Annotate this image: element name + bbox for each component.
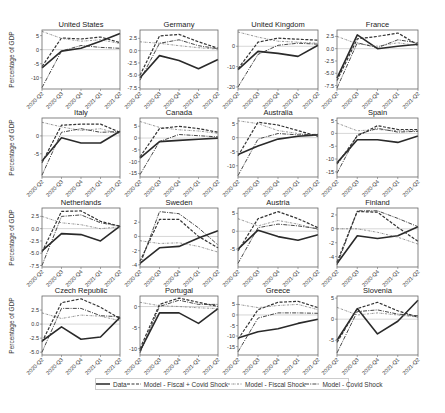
panel-frame	[140, 208, 218, 267]
y-tick-label: -5	[132, 325, 137, 331]
x-tick-label: 2020-Q4	[162, 356, 181, 375]
x-tick-label: 2020-Q2	[25, 90, 44, 109]
y-tick-label: -5.0	[30, 349, 39, 355]
x-tick-label: 2020-Q2	[320, 178, 339, 197]
y-tick-label: -5	[329, 143, 334, 149]
legend-item-covid: Model - Covid Shock	[305, 381, 382, 388]
y-tick-label: -4	[329, 254, 334, 260]
panel-united-states: United States50-5-102020-Q22020-Q32020-Q…	[8, 20, 123, 110]
dashed-line-swatch-icon	[127, 382, 141, 386]
dashdot-line-swatch-icon	[305, 382, 319, 386]
x-tick-label: 2020-Q4	[261, 178, 280, 197]
y-tick-label: 0	[232, 135, 235, 141]
x-tick-label: 2021-Q2	[401, 90, 420, 109]
x-tick-label: 2020-Q2	[320, 268, 339, 287]
x-tick-label: 2020-Q3	[241, 178, 260, 197]
panel-canada: Canada50-5-10-152020-Q22020-Q32020-Q4202…	[123, 108, 220, 198]
y-tick-label: -10	[326, 156, 334, 162]
x-tick-label: 2020-Q3	[143, 268, 162, 287]
x-tick-label: 2020-Q3	[45, 178, 64, 197]
series-line-model-fiscal-covid-shock	[42, 211, 120, 252]
y-axis-label: Percentage of GDP	[8, 297, 16, 353]
series-line-model-fiscal-shock	[238, 304, 318, 309]
panel-title: Portugal	[165, 286, 193, 295]
x-tick-label: 2021-Q2	[201, 90, 220, 109]
series-line-data	[337, 35, 418, 78]
panel-title: Slovenia	[363, 286, 393, 295]
y-tick-label: -5	[34, 151, 39, 157]
x-tick-label: 2021-Q1	[381, 356, 400, 375]
y-tick-label: -5.0	[30, 250, 39, 256]
series-line-model-fiscal-covid-shock	[337, 302, 418, 342]
x-tick-label: 2020-Q2	[25, 178, 44, 197]
panel-frame	[337, 296, 418, 355]
panel-title: United Kingdom	[251, 20, 304, 29]
y-tick-label: 0	[232, 43, 235, 49]
panel-frame	[238, 118, 318, 177]
legend-label: Model - Fiscal Shock	[245, 381, 305, 388]
panel-spain: Spain50-5-10-152020-Q22020-Q32020-Q42021…	[320, 108, 420, 198]
x-tick-label: 2021-Q1	[182, 268, 201, 287]
panel-united-kingdom: United Kingdom0-10-202020-Q22020-Q32020-…	[221, 20, 320, 110]
series-line-model-covid-shock	[337, 40, 418, 88]
series-line-data	[42, 226, 120, 251]
y-tick-label: -10	[31, 75, 39, 81]
y-tick-label: 0	[36, 133, 39, 139]
series-line-model-covid-shock	[337, 310, 418, 353]
x-tick-label: 2020-Q4	[261, 356, 280, 375]
y-tick-label: -7.5	[30, 263, 39, 269]
y-tick-label: -15	[129, 170, 137, 176]
x-tick-label: 2021-Q1	[182, 356, 201, 375]
panel-title: Germany	[164, 20, 195, 29]
series-line-model-fiscal-covid-shock	[337, 126, 418, 165]
panel-title: Spain	[368, 108, 387, 117]
y-tick-label: 0.0	[326, 46, 334, 52]
y-tick-label: 2.5	[31, 213, 39, 219]
y-tick-label: -5.0	[325, 70, 334, 76]
series-line-model-fiscal-shock	[140, 302, 218, 308]
y-tick-label: -5	[230, 323, 235, 329]
series-line-data	[238, 230, 318, 249]
chart-legend: Data Model - Fiscal + Covid Shock Model …	[95, 378, 349, 390]
y-tick-label: -20	[227, 84, 235, 90]
x-tick-label: 2020-Q3	[45, 90, 64, 109]
panel-finland: Finland20-2-42020-Q22020-Q32020-Q42021-Q…	[320, 198, 420, 288]
x-tick-label: 2021-Q2	[201, 268, 220, 287]
x-tick-label: 2021-Q2	[301, 268, 320, 287]
x-tick-label: 2020-Q2	[221, 90, 240, 109]
y-tick-label: -2.5	[30, 335, 39, 341]
panel-france: France2.50.0-2.5-5.0-7.52020-Q22020-Q320…	[320, 20, 420, 110]
dotdash-line-swatch-icon	[228, 382, 242, 386]
legend-item-fiscal-covid: Model - Fiscal + Covid Shock	[127, 381, 228, 388]
x-tick-label: 2020-Q2	[123, 356, 142, 375]
panel-title: Finland	[365, 198, 390, 207]
series-line-model-covid-shock	[238, 313, 318, 352]
x-tick-label: 2021-Q1	[381, 90, 400, 109]
y-tick-label: -4	[132, 262, 137, 268]
y-tick-label: 2.5	[326, 33, 334, 39]
y-tick-label: -2	[329, 240, 334, 246]
y-tick-label: 2	[331, 212, 334, 218]
x-tick-label: 2020-Q3	[45, 268, 64, 287]
series-line-data	[337, 136, 418, 163]
x-tick-label: 2021-Q2	[103, 356, 122, 375]
x-tick-label: 2020-Q2	[25, 356, 44, 375]
x-tick-label: 2020-Q2	[25, 268, 44, 287]
y-tick-label: 0	[331, 130, 334, 136]
y-tick-label: -7.5	[325, 83, 334, 89]
panel-frame	[238, 296, 318, 355]
y-tick-label: 0.0	[31, 321, 39, 327]
x-tick-label: 2021-Q1	[381, 178, 400, 197]
panel-slovenia: Slovenia50-52020-Q22020-Q32020-Q42021-Q1…	[320, 286, 420, 376]
y-tick-label: 0.0	[31, 226, 39, 232]
y-axis-label: Percentage of GDP	[8, 209, 16, 265]
panel-frame	[42, 208, 120, 267]
y-tick-label: -2	[132, 248, 137, 254]
panel-germany: Germany2.50.0-2.5-5.0-7.52020-Q22020-Q32…	[123, 20, 220, 110]
y-tick-label: -2.5	[325, 58, 334, 64]
y-tick-label: -5	[230, 246, 235, 252]
panel-title: United States	[58, 20, 103, 29]
x-tick-label: 2020-Q4	[361, 90, 380, 109]
x-tick-label: 2021-Q1	[84, 90, 103, 109]
y-tick-label: 5	[331, 295, 334, 301]
